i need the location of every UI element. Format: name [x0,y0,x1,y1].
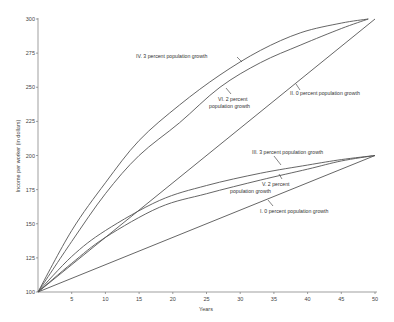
label-ii: II. 0 percent population growth [290,90,360,96]
label-v-line2: population growth [230,188,271,194]
arrow-i [268,200,273,206]
y-tick-label: 125 [26,255,35,261]
x-tick-label: 25 [203,296,209,302]
label-iii: III. 3 percent population growth [252,149,323,155]
y-tick-label: 200 [26,153,35,159]
x-tick-label: 10 [102,296,108,302]
x-tick-label: 20 [170,296,176,302]
x-tick-label: 50 [372,296,378,302]
series-line-vi [38,19,368,292]
label-i: I. 0 percent population growth [260,208,328,214]
x-tick-label: 45 [338,296,344,302]
series-curves [38,19,375,292]
arrow-vi [226,88,231,94]
y-ticks: 100125150175200225250275300 [26,16,38,295]
series-line-iv [38,19,368,292]
series-line-ii [38,19,375,292]
x-tick-label: 15 [136,296,142,302]
y-tick-label: 100 [26,289,35,295]
y-tick-label: 300 [26,16,35,22]
arrow-iv [237,57,242,62]
x-tick-label: 35 [271,296,277,302]
arrow-iii [274,156,281,165]
x-tick-label: 5 [70,296,73,302]
x-ticks: 5101520253035404550 [70,292,378,302]
label-vi-line1: VI. 2 percent [218,96,248,102]
line-chart: 100125150175200225250275300 510152025303… [0,0,394,322]
annotations: IV. 3 percent population growth VI. 2 pe… [136,53,360,214]
y-tick-label: 150 [26,221,35,227]
label-vi-line2: population growth [209,103,250,109]
series-line-i [38,156,375,293]
x-axis-label: Years [199,306,213,312]
y-tick-label: 225 [26,118,35,124]
x-tick-label: 40 [305,296,311,302]
y-tick-label: 275 [26,50,35,56]
y-axis-label: Income per worker (in dollars) [15,119,21,192]
label-iv: IV. 3 percent population growth [136,53,207,59]
x-tick-label: 30 [237,296,243,302]
y-tick-label: 250 [26,84,35,90]
label-v-line1: V. 2 percent [262,181,290,187]
y-tick-label: 175 [26,187,35,193]
